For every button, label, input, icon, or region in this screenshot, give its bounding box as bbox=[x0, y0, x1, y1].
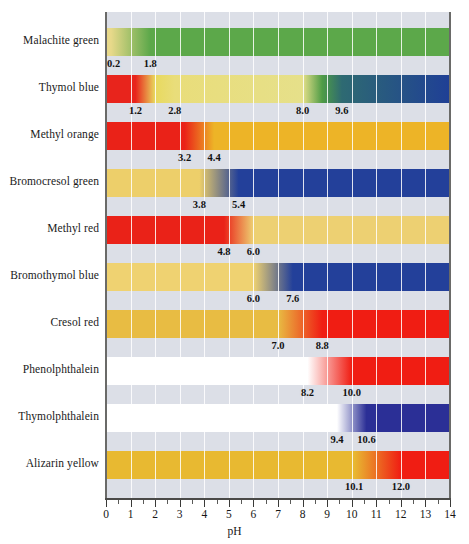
x-tick-major bbox=[352, 500, 353, 507]
x-tick-major bbox=[253, 500, 254, 507]
x-tick-major bbox=[204, 500, 205, 507]
x-tick-minor bbox=[266, 500, 267, 504]
indicator-color-band bbox=[106, 263, 450, 291]
indicator-color-band bbox=[106, 28, 450, 56]
transition-ph-label: 2.8 bbox=[168, 105, 181, 116]
x-tick-minor bbox=[315, 500, 316, 504]
x-tick-major bbox=[155, 500, 156, 507]
transition-ph-label: 3.2 bbox=[178, 152, 191, 163]
x-tick-minor bbox=[389, 500, 390, 504]
transition-ph-label: 9.6 bbox=[335, 105, 348, 116]
x-tick-label: 2 bbox=[152, 508, 158, 520]
indicator-color-band bbox=[106, 404, 450, 432]
x-tick-label: 12 bbox=[395, 508, 407, 520]
transition-ph-label: 4.4 bbox=[208, 152, 221, 163]
indicator-name-label: Cresol red bbox=[0, 316, 99, 328]
x-tick-major bbox=[450, 500, 451, 507]
transition-ph-label: 10.0 bbox=[343, 387, 361, 398]
x-tick-major bbox=[303, 500, 304, 507]
indicator-color-band bbox=[106, 310, 450, 338]
x-tick-label: 9 bbox=[324, 508, 330, 520]
indicator-name-label: Bromothymol blue bbox=[0, 269, 99, 281]
x-tick-label: 7 bbox=[275, 508, 281, 520]
ph-indicator-chart: Malachite green0.21.8Thymol blue1.22.88.… bbox=[0, 0, 469, 544]
indicator-color-band bbox=[106, 216, 450, 244]
x-tick-label: 1 bbox=[128, 508, 134, 520]
axis-spine-right bbox=[449, 12, 451, 499]
x-tick-major bbox=[106, 500, 107, 507]
indicator-name-label: Phenolphthalein bbox=[0, 363, 99, 375]
x-tick-label: 4 bbox=[201, 508, 207, 520]
indicator-name-label: Thymolphthalein bbox=[0, 410, 99, 422]
x-tick-major bbox=[376, 500, 377, 507]
x-tick-label: 10 bbox=[346, 508, 358, 520]
x-tick-label: 5 bbox=[226, 508, 232, 520]
indicator-color-band bbox=[106, 451, 450, 479]
x-tick-label: 14 bbox=[444, 508, 456, 520]
x-tick-minor bbox=[290, 500, 291, 504]
transition-ph-label: 10.1 bbox=[345, 481, 363, 492]
x-tick-major bbox=[425, 500, 426, 507]
x-tick-major bbox=[327, 500, 328, 507]
x-tick-major bbox=[180, 500, 181, 507]
x-tick-minor bbox=[413, 500, 414, 504]
transition-ph-label: 12.0 bbox=[392, 481, 410, 492]
transition-ph-label: 8.2 bbox=[301, 387, 314, 398]
indicator-name-label: Bromocresol green bbox=[0, 175, 99, 187]
x-tick-minor bbox=[118, 500, 119, 504]
x-tick-minor bbox=[339, 500, 340, 504]
x-tick-label: 11 bbox=[371, 508, 382, 520]
transition-ph-label: 5.4 bbox=[232, 199, 245, 210]
transition-ph-label: 1.2 bbox=[129, 105, 142, 116]
transition-ph-label: 4.8 bbox=[217, 246, 230, 257]
indicator-color-band bbox=[106, 357, 450, 385]
x-tick-major bbox=[278, 500, 279, 507]
x-tick-minor bbox=[241, 500, 242, 504]
transition-ph-label: 6.0 bbox=[247, 246, 260, 257]
transition-ph-label: 9.4 bbox=[330, 434, 343, 445]
x-tick-label: 8 bbox=[300, 508, 306, 520]
indicator-color-band bbox=[106, 122, 450, 150]
x-tick-label: 0 bbox=[103, 508, 109, 520]
x-tick-minor bbox=[364, 500, 365, 504]
transition-ph-label: 3.8 bbox=[193, 199, 206, 210]
transition-ph-label: 7.6 bbox=[286, 293, 299, 304]
transition-ph-label: 6.0 bbox=[247, 293, 260, 304]
transition-ph-label: 8.0 bbox=[296, 105, 309, 116]
transition-ph-label: 7.0 bbox=[271, 340, 284, 351]
x-tick-minor bbox=[143, 500, 144, 504]
x-tick-label: 13 bbox=[420, 508, 432, 520]
x-tick-minor bbox=[217, 500, 218, 504]
indicator-color-band bbox=[106, 75, 450, 103]
x-tick-minor bbox=[167, 500, 168, 504]
x-tick-major bbox=[229, 500, 230, 507]
transition-ph-label: 8.8 bbox=[316, 340, 329, 351]
x-tick-major bbox=[401, 500, 402, 507]
x-tick-minor bbox=[438, 500, 439, 504]
axis-spine-left bbox=[105, 12, 107, 499]
transition-ph-label: 10.6 bbox=[357, 434, 375, 445]
indicator-name-label: Thymol blue bbox=[0, 81, 99, 93]
indicator-name-label: Methyl red bbox=[0, 222, 99, 234]
transition-ph-label: 1.8 bbox=[144, 58, 157, 69]
transition-ph-label: 0.2 bbox=[107, 58, 120, 69]
indicator-name-label: Methyl orange bbox=[0, 128, 99, 140]
x-tick-label: 6 bbox=[251, 508, 257, 520]
x-tick-label: 3 bbox=[177, 508, 183, 520]
indicator-color-band bbox=[106, 169, 450, 197]
x-tick-major bbox=[131, 500, 132, 507]
indicator-name-label: Alizarin yellow bbox=[0, 457, 99, 469]
x-tick-minor bbox=[192, 500, 193, 504]
indicator-name-label: Malachite green bbox=[0, 34, 99, 46]
x-axis-title: pH bbox=[0, 525, 469, 537]
